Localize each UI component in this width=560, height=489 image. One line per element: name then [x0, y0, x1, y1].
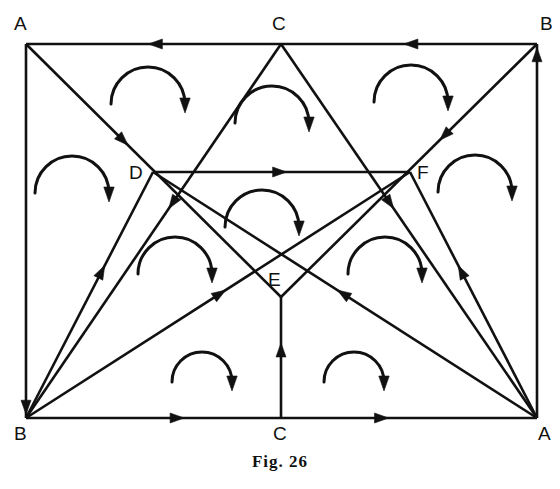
vertex-label-B-top-right: B: [540, 14, 553, 33]
arrowhead-ray-Abot-to-D: [337, 290, 351, 302]
arrowhead-chord-D-to-F: [273, 167, 287, 177]
arrowhead-ray-Bbot-to-F: [211, 290, 225, 302]
segments-layer: [21, 39, 542, 423]
curved-arrows-layer: [35, 65, 517, 391]
segment-ray-Abot-to-D: [153, 172, 537, 418]
segment-diag-Atop-to-E: [26, 44, 281, 297]
arrowhead-arc-right-upper-face: [507, 186, 517, 201]
segment-right-edge: [532, 44, 542, 418]
vertex-label-F-right-inner: F: [417, 163, 429, 182]
segment-ray-Bbot-to-Ctop: [26, 172, 153, 418]
vertex-label-E-center: E: [268, 270, 281, 289]
vertex-label-B-bottom-left: B: [14, 424, 27, 443]
curved-arrow-arc-top-right-face: [374, 65, 453, 111]
curved-arrow-arc-left-upper-face: [35, 156, 114, 202]
arrowhead-arc-top-right-face: [443, 96, 453, 111]
diagram-svg: [0, 0, 560, 489]
arrowhead-top-left-edge: [148, 39, 162, 49]
arrowhead-ray-Bbot-to-Ctop: [94, 265, 105, 280]
segment-ray-Bbot-to-F: [26, 172, 410, 418]
segment-top-right-edge: [281, 39, 537, 49]
vertex-label-D-left-inner: D: [129, 163, 143, 182]
segment-ray-Cbot-to-E: [276, 297, 286, 418]
arc-path-arc-left-middle-face: [138, 237, 212, 274]
arc-path-arc-top-right-face: [374, 65, 448, 102]
arc-path-arc-right-upper-face: [438, 155, 512, 192]
curved-arrow-arc-right-middle-face: [348, 237, 427, 283]
arrowhead-right-edge: [532, 48, 542, 62]
curved-arrow-arc-bottom-left-face: [172, 352, 237, 391]
curved-arrow-arc-left-middle-face: [138, 237, 217, 283]
curved-arrow-arc-top-left-face: [111, 67, 190, 113]
arrowhead-ray-Abot-to-Ctop: [458, 265, 469, 280]
arrowhead-arc-center-above-E: [294, 221, 304, 236]
segment-diag-Btop-to-E: [281, 44, 537, 297]
arrowhead-arc-bottom-left-face: [227, 376, 237, 391]
arrowhead-arc-left-upper-face: [104, 187, 114, 202]
segment-ray-Abot-to-Ctop: [410, 172, 537, 418]
line-diag-Atop-to-E: [26, 44, 281, 297]
arc-path-arc-center-above-E: [225, 190, 299, 227]
segment-bottom-right-edge: [281, 413, 537, 423]
curved-arrow-arc-right-upper-face: [438, 155, 517, 201]
arrowhead-top-right-edge: [404, 39, 418, 49]
arc-path-arc-bottom-right-face: [324, 352, 384, 382]
arc-path-arc-right-middle-face: [348, 237, 422, 274]
segment-top-left-edge: [26, 39, 281, 49]
curved-arrow-arc-center-above-E: [225, 190, 304, 236]
arrowhead-ray-Cbot-to-E: [276, 343, 286, 357]
figure-canvas: ACBDFEBCA Fig. 26: [0, 0, 560, 489]
segment-left-edge: [21, 44, 31, 418]
arc-path-arc-left-upper-face: [35, 156, 109, 193]
vertex-label-A-bottom-right: A: [538, 424, 551, 443]
line-diag-Btop-to-E: [281, 44, 537, 297]
arrowhead-arc-bottom-right-face: [379, 376, 389, 391]
line-ray-Abot-to-Ctop: [410, 172, 537, 418]
figure-caption: Fig. 26: [0, 452, 560, 472]
arrowhead-arc-top-left-face: [180, 98, 190, 113]
curved-arrow-arc-bottom-right-face: [324, 352, 389, 391]
arc-path-arc-top-left-face: [111, 67, 185, 104]
line-ray-Bbot-to-Ctop: [26, 172, 153, 418]
vertex-label-C-bottom-middle: C: [273, 424, 287, 443]
arrowhead-bottom-right-edge: [375, 413, 389, 423]
arrowhead-bottom-left-edge: [170, 413, 184, 423]
vertex-label-A-top-left: A: [14, 14, 27, 33]
arc-path-arc-top-center-face: [235, 86, 309, 123]
arrowhead-arc-right-middle-face: [417, 268, 427, 283]
arrowhead-arc-top-center-face: [304, 117, 314, 132]
segment-bottom-left-edge: [26, 413, 281, 423]
vertex-label-C-top-middle: C: [272, 14, 286, 33]
arrowhead-arc-left-middle-face: [207, 268, 217, 283]
arc-path-arc-bottom-left-face: [172, 352, 232, 382]
